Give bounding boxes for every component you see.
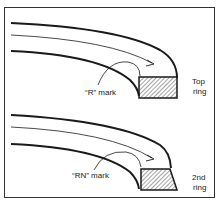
second-ring-label-line2: ring xyxy=(193,183,206,192)
top-ring-cross-section xyxy=(139,77,177,98)
top-ring-label-line1: Top xyxy=(192,77,205,86)
piston-ring-marks-diagram: “R” mark Top ring “RN” mark 2nd ring xyxy=(0,0,219,205)
top-ring-mark-label: “R” mark xyxy=(85,88,117,97)
ring-inner-edge xyxy=(11,144,139,189)
ring-outer-edge xyxy=(11,115,171,168)
arrow-head-icon xyxy=(146,155,154,161)
top-ring-panel: “R” mark Top ring xyxy=(11,23,206,98)
top-ring-label-line2: ring xyxy=(193,87,206,96)
figure-frame xyxy=(5,8,215,198)
second-ring-cross-section xyxy=(141,169,177,190)
ring-inner-edge xyxy=(11,51,139,96)
mark-leader-line xyxy=(94,152,141,170)
second-ring-panel: “RN” mark 2nd ring xyxy=(11,115,206,192)
second-ring-mark-label: “RN” mark xyxy=(72,171,110,180)
second-ring-label-line1: 2nd xyxy=(192,173,205,182)
ring-outer-edge xyxy=(11,23,177,78)
